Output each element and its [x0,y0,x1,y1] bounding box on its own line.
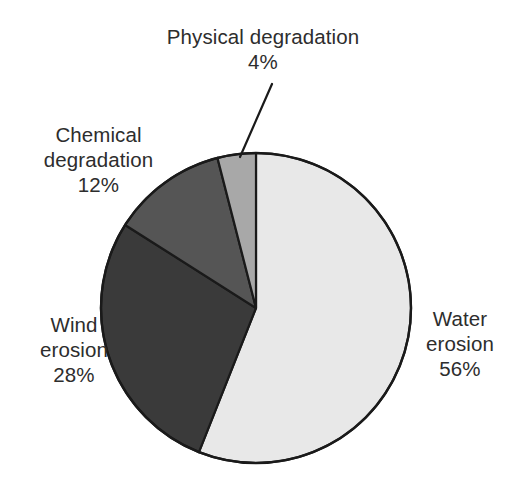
pie-chart-figure: Physical degradation 4% Chemical degrada… [0,0,517,485]
physical-degradation-leader-line [240,84,272,157]
pie-label-wind-erosion: Wind erosion 28% [4,312,144,387]
pie-label-water-erosion: Water erosion 56% [404,306,516,381]
pie-label-chemical-degradation: Chemical degradation 12% [6,122,191,197]
pie-label-physical-degradation: Physical degradation 4% [148,24,378,74]
